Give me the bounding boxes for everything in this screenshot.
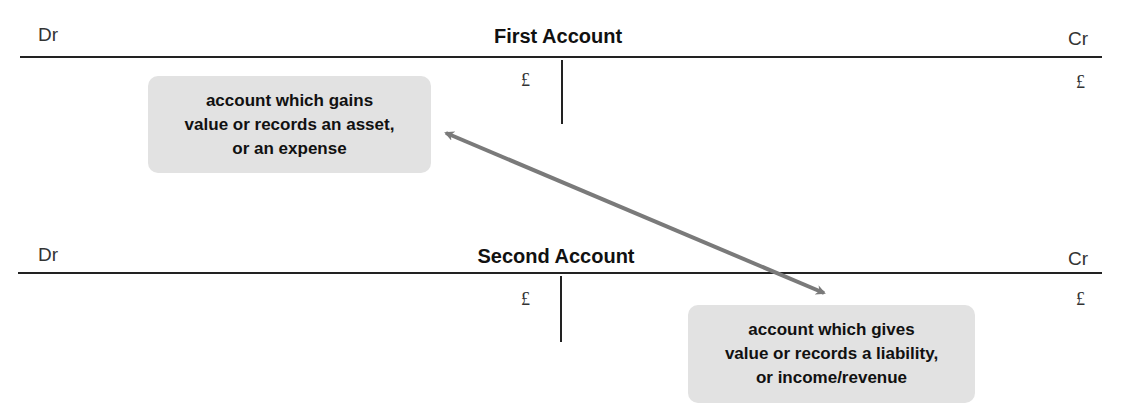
double-headed-arrow-icon bbox=[0, 0, 1126, 409]
